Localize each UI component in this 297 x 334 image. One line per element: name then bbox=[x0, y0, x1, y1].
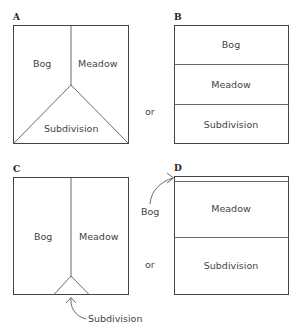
panel-c: C Bog Meadow Subdivision bbox=[13, 164, 142, 324]
panel-d-border bbox=[175, 177, 289, 295]
panel-c-region-bog: Bog bbox=[34, 231, 52, 242]
land-use-diagram: A Bog Meadow Subdivision or B Bog Meadow… bbox=[0, 0, 297, 334]
panel-d-callout-bog: Bog bbox=[141, 206, 159, 217]
arrowhead-right bbox=[71, 298, 76, 304]
panel-a-region-bog: Bog bbox=[33, 58, 51, 69]
panel-c-callout-subdivision: Subdivision bbox=[88, 313, 142, 324]
panel-b: B Bog Meadow Subdivision bbox=[174, 12, 289, 144]
panel-a: A Bog Meadow Subdivision bbox=[12, 12, 129, 144]
panel-label-a: A bbox=[12, 12, 21, 22]
panel-a-region-meadow: Meadow bbox=[78, 58, 118, 69]
panel-c-region-meadow: Meadow bbox=[79, 231, 119, 242]
panel-b-region-bog: Bog bbox=[222, 39, 240, 50]
arrowhead-left bbox=[66, 298, 71, 304]
panel-a-left-diagonal bbox=[14, 85, 72, 144]
subdivision-callout-arrow bbox=[71, 298, 86, 319]
connector-or-top: or bbox=[145, 106, 155, 117]
connector-or-bottom: or bbox=[145, 259, 155, 270]
panel-a-right-diagonal bbox=[71, 85, 129, 144]
panel-label-c: C bbox=[13, 164, 20, 174]
arrowhead-upper bbox=[167, 173, 174, 178]
panel-d-region-subdivision: Subdivision bbox=[204, 260, 258, 271]
panel-c-triangle-left bbox=[54, 276, 71, 295]
panel-label-b: B bbox=[174, 12, 182, 22]
panel-d: D Meadow Subdivision Bog bbox=[141, 163, 289, 295]
bog-callout-arrow bbox=[150, 178, 173, 204]
panel-b-region-subdivision: Subdivision bbox=[204, 119, 258, 130]
panel-d-region-meadow: Meadow bbox=[211, 203, 251, 214]
panel-c-triangle-right bbox=[71, 276, 89, 295]
panel-a-region-subdivision: Subdivision bbox=[44, 123, 98, 134]
panel-b-region-meadow: Meadow bbox=[211, 79, 251, 90]
panel-label-d: D bbox=[174, 163, 182, 173]
